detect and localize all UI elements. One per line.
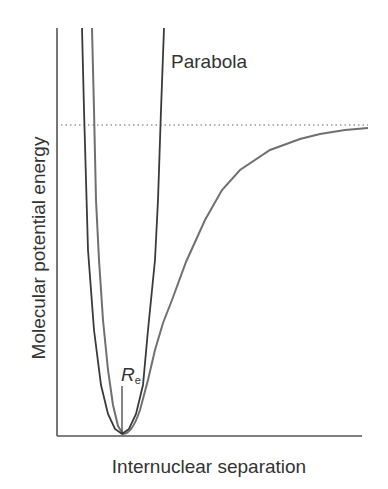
potential-energy-chart: Re Parabola Internuclear separation Mole… xyxy=(0,0,388,489)
re-label-subscript: e xyxy=(135,374,141,386)
re-label: Re xyxy=(121,364,141,386)
x-axis-label: Internuclear separation xyxy=(112,456,306,477)
y-axis-label: Molecular potential energy xyxy=(28,136,49,359)
parabola-label: Parabola xyxy=(171,51,247,72)
